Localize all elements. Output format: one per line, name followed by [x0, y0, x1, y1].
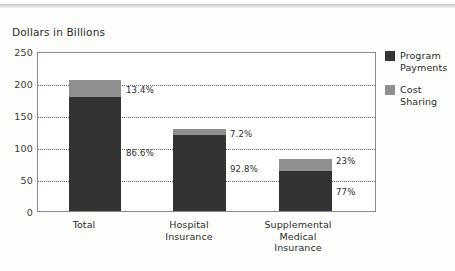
callout-smi-cost-sharing: 23%	[336, 156, 356, 166]
bar-segment-program-payments[interactable]	[279, 171, 332, 211]
y-tick-100: 100	[3, 143, 33, 154]
y-tick-0: 0	[3, 207, 33, 218]
x-axis-label-hi-line2: Insurance	[149, 231, 229, 243]
y-tick-50: 50	[3, 175, 33, 186]
legend-label-program-payments: Program Payments	[400, 50, 447, 73]
legend-swatch-cost-sharing-icon	[385, 85, 395, 95]
x-axis-label-smi-line1: Supplemental	[253, 219, 343, 231]
x-axis-label-smi-line3: Insurance	[253, 242, 343, 254]
x-axis-label-hi-line1: Hospital	[149, 219, 229, 231]
callout-smi-program: 77%	[336, 187, 356, 197]
y-tick-200: 200	[3, 79, 33, 90]
legend-label-program-payments-line2: Payments	[400, 62, 447, 74]
plot-area: 13.4% 86.6% 7.2% 92.8% 23% 77%	[37, 52, 376, 212]
chart-page: Dollars in Billions 250 200 150 100 50 0	[0, 0, 455, 271]
bar-hospital-insurance[interactable]	[173, 129, 226, 211]
legend-item-program-payments[interactable]: Program Payments	[385, 50, 455, 73]
x-axis-label-total: Total	[44, 219, 124, 231]
legend-label-program-payments-line1: Program	[400, 50, 447, 62]
legend: Program Payments Cost Sharing	[385, 50, 455, 118]
callout-total-program: 86.6%	[126, 148, 154, 158]
callout-total-cost-sharing: 13.4%	[126, 85, 154, 95]
x-axis-label-supplemental-medical-insurance: Supplemental Medical Insurance	[253, 219, 343, 254]
legend-swatch-program-payments-icon	[385, 51, 395, 61]
y-tick-150: 150	[3, 111, 33, 122]
x-axis-label-smi-line2: Medical	[253, 231, 343, 243]
bar-segment-program-payments[interactable]	[173, 135, 226, 211]
legend-label-cost-sharing-line1: Cost	[400, 84, 437, 96]
legend-item-cost-sharing[interactable]: Cost Sharing	[385, 84, 455, 107]
legend-label-cost-sharing: Cost Sharing	[400, 84, 437, 107]
scan-artifact-line-secondary	[0, 7, 455, 8]
y-tick-250: 250	[3, 47, 33, 58]
bar-segment-program-payments[interactable]	[69, 97, 121, 211]
x-axis-label-hospital-insurance: Hospital Insurance	[149, 219, 229, 242]
bar-total[interactable]	[69, 80, 121, 211]
page-title: Dollars in Billions	[12, 26, 105, 38]
callout-hi-program: 92.8%	[230, 164, 258, 174]
bar-segment-cost-sharing[interactable]	[279, 159, 332, 171]
y-axis: 250 200 150 100 50 0	[0, 52, 33, 212]
legend-label-cost-sharing-line2: Sharing	[400, 96, 437, 108]
callout-hi-cost-sharing: 7.2%	[230, 129, 252, 139]
bar-supplemental-medical-insurance[interactable]	[279, 159, 332, 212]
x-axis-label-total-line1: Total	[44, 219, 124, 231]
bar-segment-cost-sharing[interactable]	[69, 80, 121, 97]
